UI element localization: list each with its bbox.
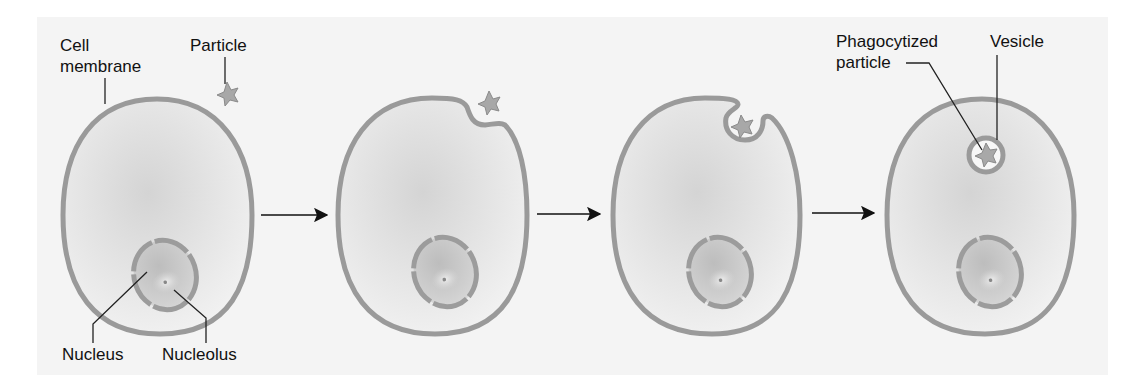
cell-stage-3 xyxy=(613,98,800,334)
label-nucleolus: Nucleolus xyxy=(162,345,237,364)
cell-stage-2 xyxy=(338,91,527,334)
phagocytosis-diagram: Cell membrane Particle Nucleus Nucleolus xyxy=(0,0,1136,388)
label-cell-membrane-line2: membrane xyxy=(60,57,141,76)
label-nucleus: Nucleus xyxy=(62,345,123,364)
label-particle: Particle xyxy=(190,36,247,55)
label-phagocytized-line1: Phagocytized xyxy=(836,32,938,51)
label-cell-membrane-line1: Cell xyxy=(60,36,89,55)
label-vesicle: Vesicle xyxy=(990,32,1044,51)
label-phagocytized-line2: particle xyxy=(836,53,891,72)
cell-stage-4 xyxy=(887,99,1074,334)
